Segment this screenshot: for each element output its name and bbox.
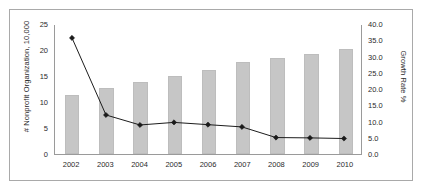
y-left-tick-label: 20	[40, 47, 48, 55]
y-axis-left-ticks: 0510152025	[24, 10, 50, 180]
y-left-tick-label: 0	[44, 151, 48, 159]
line-marker	[171, 120, 176, 125]
y-right-tick-label: 35.0	[368, 37, 383, 45]
y-right-tick-label: 5.0	[368, 135, 378, 143]
y-left-tick-label: 5	[44, 125, 48, 133]
y-left-tick-label: 25	[40, 21, 48, 29]
y-right-tick-label: 10.0	[368, 119, 383, 127]
y-right-tick-label: 15.0	[368, 102, 383, 110]
y-right-tick-label: 20.0	[368, 86, 383, 94]
line-marker	[273, 135, 278, 140]
y-left-tick-label: 10	[40, 99, 48, 107]
growth-rate-line-svg	[55, 25, 361, 154]
y-axis-right-ticks: 0.05.010.015.020.025.030.035.040.0	[363, 10, 393, 180]
y-right-tick-label: 0.0	[368, 151, 378, 159]
chart-container: # Nonprofit Organization, 10,000 Growth …	[9, 9, 413, 181]
y-axis-right-title: Growth Rate %	[399, 14, 408, 140]
line-marker	[239, 124, 244, 129]
y-left-tick-label: 15	[40, 73, 48, 81]
line-marker	[341, 136, 346, 141]
x-axis-tick-label: 2007	[225, 160, 259, 169]
line-marker	[137, 122, 142, 127]
x-axis-tick-label: 2009	[294, 160, 328, 169]
x-axis-labels: 200220032004200520062007200820092010	[54, 160, 362, 174]
line-marker	[69, 35, 74, 40]
line-marker	[307, 135, 312, 140]
plot-area	[54, 25, 362, 155]
x-axis-tick-label: 2002	[54, 160, 88, 169]
x-axis-tick-label: 2005	[157, 160, 191, 169]
y-right-tick-label: 40.0	[368, 21, 383, 29]
y-right-tick-label: 25.0	[368, 70, 383, 78]
x-axis-tick-label: 2010	[328, 160, 362, 169]
line-series-layer	[55, 25, 361, 154]
line-marker	[205, 122, 210, 127]
x-axis-tick-label: 2003	[88, 160, 122, 169]
y-right-tick-label: 30.0	[368, 54, 383, 62]
x-axis-tick-label: 2008	[259, 160, 293, 169]
clipped-title-remnant	[10, 2, 426, 10]
x-axis-tick-label: 2004	[122, 160, 156, 169]
line-marker	[103, 112, 108, 117]
x-axis-tick-label: 2006	[191, 160, 225, 169]
